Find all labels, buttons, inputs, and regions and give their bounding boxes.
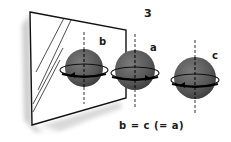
label-a: a xyxy=(150,43,157,53)
figure-number: 3 xyxy=(144,8,152,19)
label-b: b xyxy=(99,37,106,47)
diagram-stage: 3 b a c b = c (= a) xyxy=(0,0,231,142)
label-c: c xyxy=(212,51,218,61)
mirror-spheres-illustration xyxy=(0,0,231,142)
figure-caption: b = c (= a) xyxy=(119,121,184,131)
